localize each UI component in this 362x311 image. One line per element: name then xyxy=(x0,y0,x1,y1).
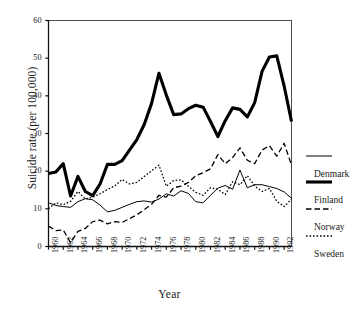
y-tick-20: 20 xyxy=(22,167,42,175)
x-tick-1990: 1990 xyxy=(273,236,281,252)
data-series-layer xyxy=(49,56,292,243)
y-tick-40: 40 xyxy=(22,92,42,100)
x-tick-1970: 1970 xyxy=(125,236,133,252)
x-tick-1992: 1992 xyxy=(287,236,295,252)
axes-frame xyxy=(49,21,292,247)
x-tick-1964: 1964 xyxy=(81,236,89,252)
y-tick-10: 10 xyxy=(22,205,42,213)
y-tick-50: 50 xyxy=(22,54,42,62)
x-tick-1962: 1962 xyxy=(67,236,75,252)
axis-ticks xyxy=(45,21,284,250)
y-tick-60: 60 xyxy=(22,17,42,25)
x-tick-1974: 1974 xyxy=(155,236,163,252)
x-tick-1984: 1984 xyxy=(229,236,237,252)
y-tick-30: 30 xyxy=(22,130,42,138)
legend-label-sweden: Sweden xyxy=(314,250,344,260)
series-line-finland xyxy=(49,56,292,196)
legend-label-norway: Norway xyxy=(314,223,345,233)
legend-label-denmark: Denmark xyxy=(314,170,349,180)
plot-area xyxy=(0,0,362,311)
x-tick-1980: 1980 xyxy=(199,236,207,252)
x-tick-1978: 1978 xyxy=(184,236,192,252)
legend-label-finland: Finland xyxy=(314,196,343,206)
x-axis-title: Year xyxy=(48,288,291,300)
y-tick-0: 0 xyxy=(22,243,42,251)
x-tick-1960: 1960 xyxy=(52,236,60,252)
x-tick-1968: 1968 xyxy=(111,236,119,252)
x-tick-1982: 1982 xyxy=(214,236,222,252)
x-tick-1972: 1972 xyxy=(140,236,148,252)
x-tick-1976: 1976 xyxy=(170,236,178,252)
series-line-sweden xyxy=(49,165,292,209)
suicide-rate-line-chart: Suicide rate (per 100,000) Year 01020304… xyxy=(0,0,362,311)
x-tick-1966: 1966 xyxy=(96,236,104,252)
x-tick-1988: 1988 xyxy=(258,236,266,252)
x-tick-1986: 1986 xyxy=(243,236,251,252)
